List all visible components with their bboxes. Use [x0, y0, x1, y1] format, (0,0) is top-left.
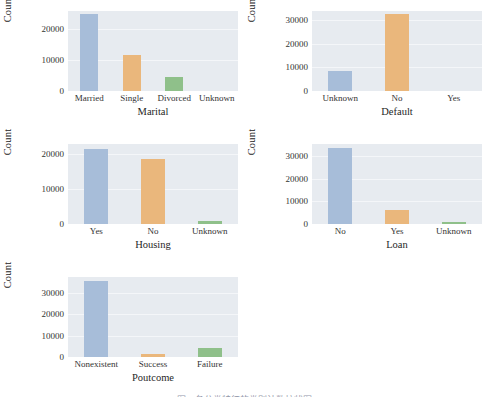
y-tick-label: 10000: [286, 62, 309, 72]
x-axis-label: Poutcome: [68, 372, 238, 383]
bar[interactable]: [165, 77, 183, 91]
bar-slot: [425, 11, 482, 91]
plot-panel-wrap: [312, 144, 482, 224]
y-axis-ticks: 01000020000: [0, 11, 64, 91]
y-tick-label: 20000: [286, 174, 309, 184]
x-axis-label: Loan: [312, 239, 482, 250]
y-tick-label: 30000: [42, 288, 65, 298]
y-tick-label: 0: [304, 219, 309, 229]
y-tick-label: 0: [304, 86, 309, 96]
bar[interactable]: [141, 159, 165, 224]
bar[interactable]: [141, 354, 165, 357]
y-axis-ticks: 0100002000030000: [244, 144, 308, 224]
bar-slot: [196, 11, 239, 91]
y-axis-ticks: 0100002000030000: [0, 277, 64, 357]
y-tick-label: 10000: [42, 55, 65, 65]
bar[interactable]: [123, 55, 141, 91]
plot-panel: [312, 11, 482, 91]
plot-panel: [312, 144, 482, 224]
x-tick-label: Unknown: [425, 226, 482, 236]
x-tick-label: Success: [125, 359, 182, 369]
x-tick-label: Yes: [425, 93, 482, 103]
y-tick-label: 30000: [286, 15, 309, 25]
plot-panel-wrap: [68, 144, 238, 224]
bar-slot: [181, 144, 238, 224]
plot-panel-wrap: [68, 11, 238, 91]
x-axis-label: Default: [312, 106, 482, 117]
y-tick-label: 20000: [42, 24, 65, 34]
y-axis-ticks: 0100002000030000: [244, 11, 308, 91]
x-tick-label: No: [312, 226, 369, 236]
chart-default: Count 0100002000030000 UnknownNoYes Defa…: [244, 0, 488, 132]
figure-caption: 图 2 各分类特征的类别计数柱状图: [0, 385, 488, 397]
bar-slot: [312, 11, 369, 91]
bar[interactable]: [442, 222, 466, 224]
bar-series: [68, 144, 238, 224]
bar[interactable]: [80, 14, 98, 91]
bar-slot: [369, 144, 426, 224]
x-axis-ticks: NonexistentSuccessFailure: [68, 359, 238, 369]
bar-slot: [68, 277, 125, 357]
y-tick-label: 20000: [286, 39, 309, 49]
x-tick-label: No: [369, 93, 426, 103]
chart-poutcome: Count 0100002000030000 NonexistentSucces…: [0, 266, 244, 397]
y-tick-label: 10000: [42, 331, 65, 341]
bar[interactable]: [385, 210, 409, 224]
x-axis-ticks: NoYesUnknown: [312, 226, 482, 236]
y-tick-label: 10000: [286, 196, 309, 206]
x-tick-label: Divorced: [153, 93, 196, 103]
y-tick-label: 0: [60, 86, 65, 96]
plot-panel: [68, 144, 238, 224]
x-tick-label: Unknown: [181, 226, 238, 236]
figure-canvas: Count 01000020000 MarriedSingleDivorcedU…: [0, 0, 488, 397]
x-tick-label: Unknown: [196, 93, 239, 103]
x-axis-label: Marital: [68, 106, 238, 117]
y-tick-label: 20000: [42, 149, 65, 159]
bar[interactable]: [84, 149, 108, 224]
bar-slot: [68, 11, 111, 91]
bar[interactable]: [198, 348, 222, 357]
x-tick-label: Yes: [369, 226, 426, 236]
plot-panel: [68, 277, 238, 357]
bar[interactable]: [198, 221, 222, 224]
bar-series: [312, 144, 482, 224]
x-tick-label: Yes: [68, 226, 125, 236]
bar-slot: [181, 277, 238, 357]
x-axis-ticks: YesNoUnknown: [68, 226, 238, 236]
chart-loan: Count 0100002000030000 NoYesUnknown Loan: [244, 133, 488, 265]
plot-panel: [68, 11, 238, 91]
x-tick-label: Unknown: [312, 93, 369, 103]
bar-slot: [153, 11, 196, 91]
x-axis-ticks: MarriedSingleDivorcedUnknown: [68, 93, 238, 103]
bar-series: [68, 277, 238, 357]
y-tick-label: 20000: [42, 309, 65, 319]
bar-slot: [312, 144, 369, 224]
plot-panel-wrap: [312, 11, 482, 91]
x-tick-label: Failure: [181, 359, 238, 369]
bar-series: [68, 11, 238, 91]
x-tick-label: Nonexistent: [68, 359, 125, 369]
bar[interactable]: [385, 14, 409, 91]
bar-slot: [125, 144, 182, 224]
bar-slot: [68, 144, 125, 224]
bar-slot: [111, 11, 154, 91]
bar[interactable]: [328, 71, 352, 91]
chart-marital: Count 01000020000 MarriedSingleDivorcedU…: [0, 0, 244, 132]
x-axis-ticks: UnknownNoYes: [312, 93, 482, 103]
y-tick-label: 30000: [286, 151, 309, 161]
bar-slot: [369, 11, 426, 91]
bar[interactable]: [84, 281, 108, 357]
x-tick-label: No: [125, 226, 182, 236]
x-tick-label: Single: [111, 93, 154, 103]
bar-slot: [125, 277, 182, 357]
y-axis-ticks: 01000020000: [0, 144, 64, 224]
bar-slot: [425, 144, 482, 224]
chart-housing: Count 01000020000 YesNoUnknown Housing: [0, 133, 244, 265]
x-axis-label: Housing: [68, 239, 238, 250]
y-tick-label: 10000: [42, 184, 65, 194]
y-tick-label: 0: [60, 352, 65, 362]
bar-series: [312, 11, 482, 91]
bar[interactable]: [328, 148, 352, 225]
y-tick-label: 0: [60, 219, 65, 229]
x-tick-label: Married: [68, 93, 111, 103]
